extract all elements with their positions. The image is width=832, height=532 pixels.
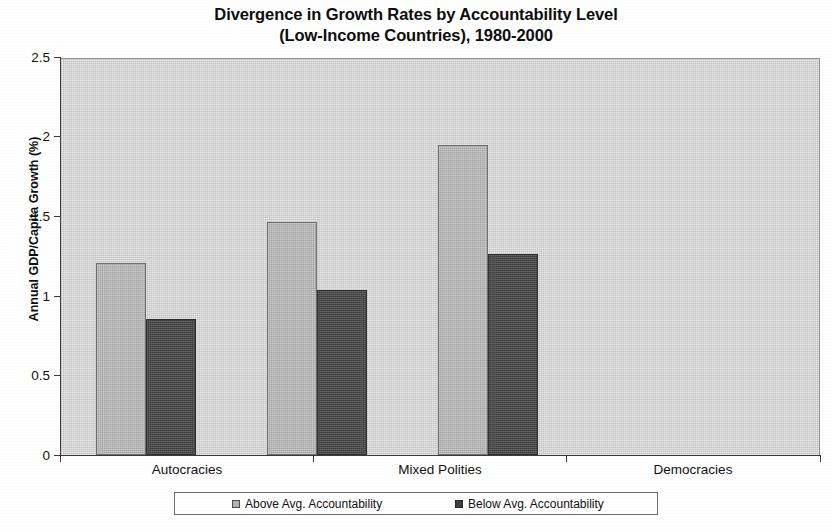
chart-title-line-2: (Low-Income Countries), 1980-2000 xyxy=(0,25,832,46)
bar-mixed-polities-below-avg xyxy=(317,290,367,455)
legend-swatch-icon-below-avg xyxy=(455,500,463,508)
x-tick-mark-2 xyxy=(566,456,567,462)
x-tick-mark-3 xyxy=(820,456,821,462)
chart-title-line-1: Divergence in Growth Rates by Accountabi… xyxy=(214,5,617,23)
y-tick-label-2-wrap: 2 xyxy=(0,130,50,143)
chart-legend: Above Avg. Accountability Below Avg. Acc… xyxy=(174,492,658,515)
bar-autocracies-above-avg xyxy=(96,263,146,455)
y-tick-label-2point5: 2.5 xyxy=(2,51,50,64)
legend-label-above-avg: Above Avg. Accountability xyxy=(245,497,382,511)
y-tick-label-2: 2 xyxy=(2,130,50,143)
x-category-label-mixed-polities: Mixed Polities xyxy=(320,462,560,477)
x-category-label-autocracies: Autocracies xyxy=(67,462,307,477)
chart-title: Divergence in Growth Rates by Accountabi… xyxy=(0,4,832,46)
x-axis-line xyxy=(60,455,821,456)
legend-swatch-icon-above-avg xyxy=(232,500,240,508)
y-tick-label-0: 0 xyxy=(2,449,50,462)
x-tick-mark-0 xyxy=(60,456,61,462)
y-tick-label-0-wrap: 0 xyxy=(0,449,50,462)
y-tick-label-0point5: 0.5 xyxy=(2,369,50,382)
y-tick-label-1-wrap: 1 xyxy=(0,290,50,303)
y-tick-label-1: 1 xyxy=(2,290,50,303)
x-category-label-democracies: Democracies xyxy=(573,462,813,477)
legend-label-below-avg: Below Avg. Accountability xyxy=(468,497,604,511)
legend-entry-below-avg: Below Avg. Accountability xyxy=(455,496,604,512)
y-tick-label-0point5-wrap: 0.5 xyxy=(0,369,50,382)
bar-democracies-below-avg xyxy=(488,254,538,455)
y-tick-label-1point5-wrap: 1.5 xyxy=(0,210,50,223)
y-axis-line xyxy=(60,57,61,456)
bar-democracies-above-avg xyxy=(438,145,488,456)
chart-figure: Divergence in Growth Rates by Accountabi… xyxy=(0,0,832,532)
legend-entry-above-avg: Above Avg. Accountability xyxy=(232,496,382,512)
y-tick-label-2point5-wrap: 2.5 xyxy=(0,51,50,64)
y-tick-label-1point5: 1.5 xyxy=(2,210,50,223)
plot-area xyxy=(60,58,820,455)
x-tick-mark-1 xyxy=(313,456,314,462)
bar-autocracies-below-avg xyxy=(146,319,196,455)
bar-mixed-polities-above-avg xyxy=(267,222,317,455)
